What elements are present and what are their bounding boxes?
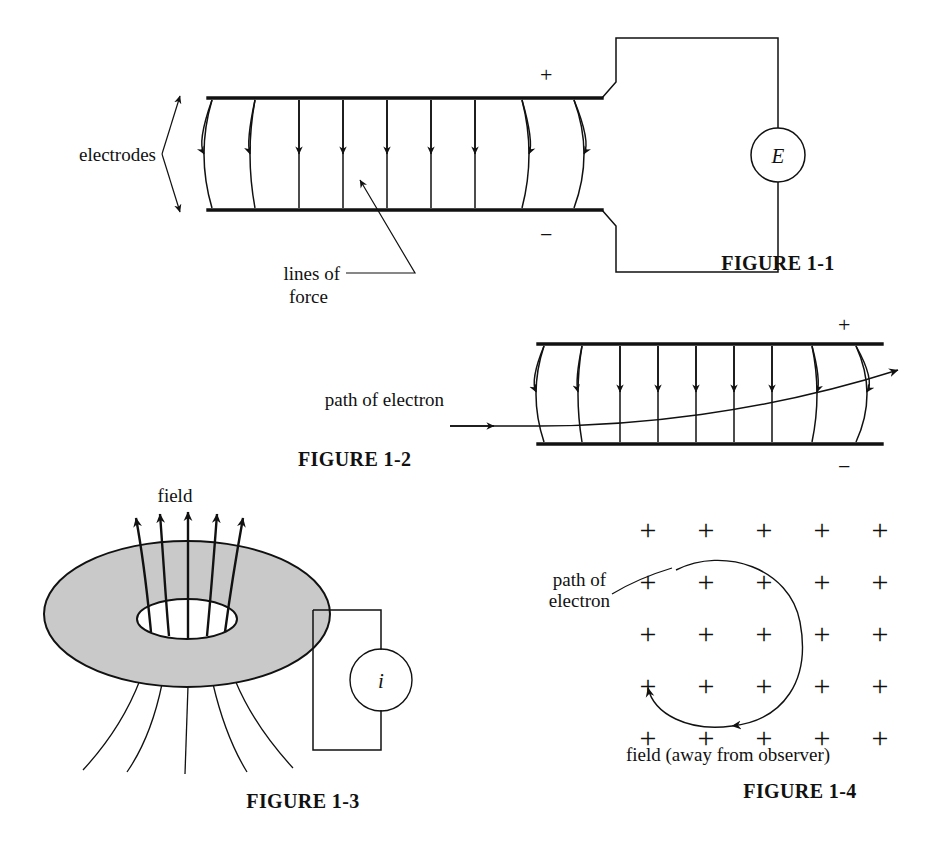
field-marker: + — [698, 617, 715, 650]
field-marker: + — [640, 617, 657, 650]
electrodes-pointer — [162, 96, 180, 212]
electrodes-label: electrodes — [79, 144, 156, 165]
field-marker-grid: +++++++++++++++++++++++++ — [640, 513, 889, 754]
source-label: E — [771, 144, 785, 168]
field-marker: + — [698, 669, 715, 702]
field-line-below — [185, 686, 188, 774]
field-marker: + — [814, 513, 831, 546]
field-marker: + — [872, 669, 889, 702]
field-marker: + — [756, 669, 773, 702]
figure-1-4: +++++++++++++++++++++++++ path of electr… — [500, 506, 920, 826]
lines-of-force-leader — [346, 180, 415, 273]
line-of-force — [536, 346, 544, 442]
figure-1-1-caption: FIGURE 1-1 — [721, 252, 834, 274]
field-line-below — [83, 680, 140, 770]
line-of-force — [856, 346, 867, 442]
field-line-below — [213, 684, 247, 772]
lines-of-force-label-line2: force — [289, 286, 328, 307]
field-marker: + — [872, 617, 889, 650]
electron-path — [450, 370, 898, 426]
electron-spiral-path — [676, 560, 802, 726]
line-of-force — [574, 100, 584, 208]
field-marker: + — [814, 565, 831, 598]
figure-1-3: field i FIGURE 1-3 — [35, 482, 455, 822]
electron-spiral-path-tail — [648, 688, 732, 727]
field-marker: + — [872, 565, 889, 598]
field-marker: + — [640, 669, 657, 702]
field-marker: + — [756, 513, 773, 546]
current-source-label: i — [378, 669, 384, 693]
field-marker: + — [698, 565, 715, 598]
field-lines-below — [83, 680, 293, 774]
path-of-electron-label-line1: path of — [553, 569, 607, 590]
field-marker: + — [814, 669, 831, 702]
plus-sign: + — [838, 312, 850, 337]
field-marker: + — [814, 617, 831, 650]
figure-sheet: electrodes lines of force + − E FIGURE 1… — [0, 0, 928, 841]
field-marker: + — [640, 513, 657, 546]
field-line-below — [235, 680, 293, 768]
plus-sign: + — [540, 62, 552, 87]
lines-of-force-group — [202, 100, 586, 208]
line-of-force — [204, 100, 212, 208]
field-marker: + — [872, 721, 889, 754]
path-of-electron-label-line2: electron — [549, 590, 611, 611]
figure-1-1: electrodes lines of force + − E FIGURE 1… — [150, 30, 920, 300]
minus-sign: − — [838, 454, 850, 479]
field-marker: + — [756, 617, 773, 650]
path-of-electron-label: path of electron — [325, 389, 445, 410]
figure-1-2-caption: FIGURE 1-2 — [298, 448, 411, 470]
figure-1-4-caption: FIGURE 1-4 — [743, 780, 856, 802]
field-marker: + — [640, 565, 657, 598]
minus-sign: − — [540, 222, 552, 247]
field-note-label: field (away from observer) — [626, 744, 830, 766]
field-marker: + — [872, 513, 889, 546]
figure-1-3-caption: FIGURE 1-3 — [246, 790, 359, 812]
figure-1-2: path of electron + − FIGURE 1-2 — [290, 318, 920, 478]
field-marker: + — [698, 513, 715, 546]
field-label: field — [158, 485, 193, 506]
current-circuit — [313, 610, 412, 750]
lines-of-force-group — [534, 346, 869, 442]
lines-of-force-label-line1: lines of — [284, 263, 341, 284]
